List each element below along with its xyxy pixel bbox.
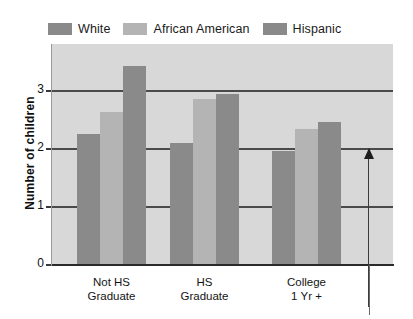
legend-swatch-white [48, 23, 72, 35]
x-label-line: Not HS [62, 276, 162, 290]
chart-legend: White African American Hispanic [48, 20, 368, 37]
x-axis-line [52, 264, 394, 266]
x-axis-label-group: College1 Yr + [257, 276, 357, 303]
arrow-shaft [368, 157, 369, 307]
x-label-line: Graduate [62, 290, 162, 304]
bar [295, 129, 318, 264]
bar [272, 151, 295, 264]
x-axis-label-group: Not HSGraduate [62, 276, 162, 303]
legend-swatch-african-american [123, 23, 147, 35]
bar [77, 134, 100, 265]
y-tick-label-1: 1 [0, 198, 44, 212]
bar [193, 99, 216, 264]
x-label-line: 1 Yr + [257, 290, 357, 304]
legend-label-african-american: African American [153, 22, 249, 36]
bar-chart: White African American Hispanic Number o… [0, 0, 413, 319]
x-axis-labels: Not HSGraduateHSGraduateCollege1 Yr + [52, 272, 393, 312]
legend-label-white: White [78, 22, 110, 36]
plot-inner [52, 44, 393, 265]
bar [318, 122, 341, 264]
legend-swatch-hispanic [263, 23, 287, 35]
x-label-line: Graduate [155, 290, 255, 304]
x-axis-label-group: HSGraduate [155, 276, 255, 303]
legend-label-hispanic: Hispanic [293, 22, 342, 36]
bar [216, 94, 239, 264]
legend-item-african-american: African American [123, 22, 249, 36]
y-tick-label-3: 3 [0, 82, 44, 96]
x-label-line: College [257, 276, 357, 290]
legend-item-white: White [48, 22, 110, 36]
gridline-3 [52, 90, 393, 92]
y-tick-label-0: 0 [0, 256, 44, 270]
arrow-head-up [364, 148, 374, 159]
y-tick-label-2: 2 [0, 140, 44, 154]
bar [123, 66, 146, 264]
x-label-line: HS [155, 276, 255, 290]
bar [170, 143, 193, 264]
legend-item-hispanic: Hispanic [263, 22, 342, 36]
y-axis-line [51, 44, 52, 266]
bar [100, 112, 123, 264]
plot-area [52, 44, 393, 265]
